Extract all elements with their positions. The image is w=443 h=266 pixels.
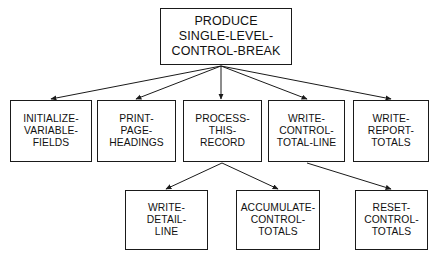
- node-print-page-headings[interactable]: PRINT- PAGE- HEADINGS: [97, 100, 176, 162]
- node-label: PROCESS- THIS- RECORD: [184, 113, 261, 149]
- node-write-detail-line[interactable]: WRITE- DETAIL- LINE: [125, 190, 208, 250]
- node-initialize-variable-fields[interactable]: INITIALIZE- VARIABLE- FIELDS: [10, 100, 92, 162]
- node-label: WRITE- DETAIL- LINE: [126, 202, 207, 238]
- connector-produce-single-level-control-break-to-write-report-totals: [221, 66, 391, 99]
- connector-produce-single-level-control-break-to-initialize-variable-fields: [51, 66, 221, 99]
- node-write-control-total-line[interactable]: WRITE- CONTROL- TOTAL-LINE: [268, 100, 345, 162]
- connector-write-control-total-line-to-reset-control-totals: [307, 163, 391, 189]
- node-label: WRITE- REPORT- TOTALS: [354, 113, 428, 149]
- connector-process-this-record-to-accumulate-control-totals: [222, 163, 278, 189]
- node-label: ACCUMULATE- CONTROL- TOTALS: [237, 202, 319, 238]
- node-label: INITIALIZE- VARIABLE- FIELDS: [11, 113, 91, 149]
- node-write-report-totals[interactable]: WRITE- REPORT- TOTALS: [353, 100, 429, 162]
- node-produce-single-level-control-break[interactable]: PRODUCE SINGLE-LEVEL- CONTROL-BREAK: [160, 8, 292, 65]
- connector-process-this-record-to-write-detail-line: [166, 163, 222, 189]
- node-label: PRODUCE SINGLE-LEVEL- CONTROL-BREAK: [161, 14, 291, 58]
- node-label: RESET- CONTROL- TOTALS: [356, 202, 427, 238]
- node-process-this-record[interactable]: PROCESS- THIS- RECORD: [183, 100, 262, 162]
- connector-produce-single-level-control-break-to-print-page-headings: [136, 66, 221, 99]
- node-label: PRINT- PAGE- HEADINGS: [98, 113, 175, 149]
- structure-chart: PRODUCE SINGLE-LEVEL- CONTROL-BREAKINITI…: [0, 0, 443, 266]
- node-label: WRITE- CONTROL- TOTAL-LINE: [269, 113, 344, 149]
- node-accumulate-control-totals[interactable]: ACCUMULATE- CONTROL- TOTALS: [236, 190, 320, 250]
- connector-produce-single-level-control-break-to-write-control-total-line: [221, 66, 307, 99]
- node-reset-control-totals[interactable]: RESET- CONTROL- TOTALS: [355, 190, 428, 250]
